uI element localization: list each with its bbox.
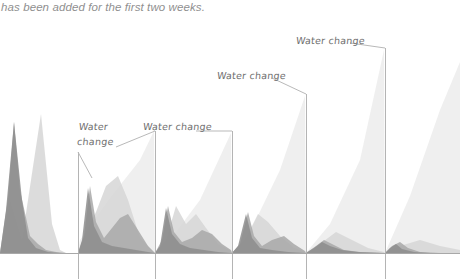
callout-3-line1: Water change [216,70,286,81]
callout-1-line1: Water [78,121,108,132]
area-chart-canvas [0,0,460,279]
chart-figure: has been added for the first two weeks. … [0,0,460,279]
callout-leader-layer [78,43,385,178]
callout-2-line1: Water change [142,121,212,132]
callout-water-change-2: Water change [142,119,213,134]
callout-leader-1-tick [78,152,92,178]
callout-water-change-4: Water change [295,33,366,48]
callout-1-line2: change [77,136,115,147]
callout-water-change-3: Water change [216,68,287,83]
callout-water-change-1: Water change [76,119,125,149]
callout-4-line1: Water change [295,35,365,46]
